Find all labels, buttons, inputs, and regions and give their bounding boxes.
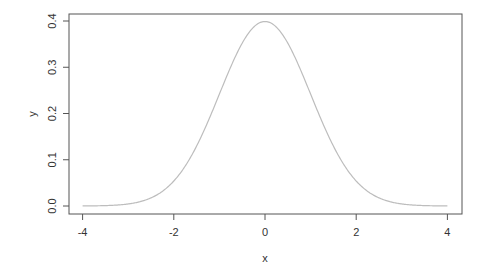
x-tick-label: -2 [169, 226, 179, 238]
x-tick-label: 0 [262, 226, 268, 238]
y-tick-label: 0.0 [46, 198, 58, 213]
normal-density-plot: -4-2024 0.00.10.20.30.4 x y [0, 0, 485, 276]
x-axis-label: x [262, 252, 268, 264]
y-tick-label: 0.2 [46, 106, 58, 121]
y-tick-label: 0.1 [46, 152, 58, 167]
x-tick-label: 4 [444, 226, 450, 238]
y-tick-label: 0.3 [46, 60, 58, 75]
x-tick-label: -4 [78, 226, 88, 238]
plot-box [69, 14, 462, 214]
x-axis: -4-2024 [78, 214, 451, 238]
y-tick-label: 0.4 [46, 13, 58, 28]
y-axis: 0.00.10.20.30.4 [46, 13, 69, 213]
y-axis-label: y [26, 111, 38, 117]
x-tick-label: 2 [353, 226, 359, 238]
density-curve [83, 21, 448, 205]
